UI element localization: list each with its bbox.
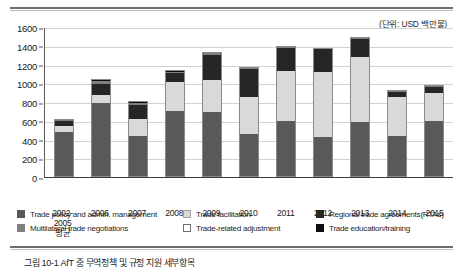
bar-segment[interactable]	[387, 136, 407, 177]
bar-segment[interactable]	[276, 71, 296, 121]
top-divider-rule-thin	[10, 10, 453, 11]
stacked-bar[interactable]	[91, 79, 111, 177]
y-axis-tick-mark	[39, 28, 43, 29]
bar-slot	[119, 28, 156, 177]
legend-swatch-icon	[183, 224, 191, 232]
stacked-bar[interactable]	[313, 48, 333, 177]
y-axis-tick-label: 1200	[17, 60, 37, 71]
y-axis-tick-mark	[39, 141, 43, 142]
legend-label: Trade-related adjustment	[196, 224, 280, 233]
legend-item-multilateral[interactable]: Multilateral trade negotiations	[17, 224, 183, 233]
bar-segment[interactable]	[387, 97, 407, 136]
stacked-bar[interactable]	[165, 70, 185, 177]
legend-item-rtas[interactable]: Regional trade agreements(RTAs)	[316, 210, 444, 219]
legend-label: Trade facilitation	[196, 210, 251, 219]
y-axis-tick-label: 1400	[17, 41, 37, 52]
bar-segment[interactable]	[91, 84, 111, 95]
y-axis-tick-label: 0	[32, 173, 37, 184]
bar-segment[interactable]	[350, 122, 370, 177]
y-axis-tick-mark	[39, 66, 43, 67]
bar-segment[interactable]	[165, 82, 185, 111]
y-axis-tick-mark	[39, 122, 43, 123]
bar-slot	[305, 28, 342, 177]
bar-segment[interactable]	[350, 39, 370, 56]
bar-slot	[156, 28, 193, 177]
legend-label: Trade policy and admin. management	[30, 210, 157, 219]
bar-slot	[230, 28, 267, 177]
chart-legend: Trade policy and admin. managementTrade …	[17, 207, 447, 235]
legend-swatch-icon	[17, 210, 25, 218]
stacked-bar[interactable]	[54, 119, 74, 177]
bar-segment[interactable]	[202, 55, 222, 81]
legend-label: Regional trade agreements(RTAs)	[329, 210, 444, 219]
bar-segment[interactable]	[350, 57, 370, 123]
bar-segment[interactable]	[239, 134, 259, 177]
stacked-bar[interactable]	[128, 101, 148, 177]
y-axis-tick-mark	[39, 84, 43, 85]
legend-item-trade_policy[interactable]: Trade policy and admin. management	[17, 210, 183, 219]
bar-segment[interactable]	[313, 72, 333, 137]
bar-slot	[193, 28, 230, 177]
top-divider-rule	[10, 7, 453, 9]
bar-segment[interactable]	[165, 111, 185, 177]
bar-segment[interactable]	[91, 103, 111, 177]
figure-caption: 그림 10-1 AfT 중 무역정책 및 규정 지원 세부항목	[24, 256, 195, 269]
bar-slot	[416, 28, 453, 177]
legend-item-education[interactable]: Trade education/training	[316, 224, 410, 233]
bar-segment[interactable]	[313, 49, 333, 72]
bar-slot	[268, 28, 305, 177]
bar-segment[interactable]	[128, 119, 148, 135]
stacked-bar[interactable]	[350, 37, 370, 177]
bar-segment[interactable]	[239, 69, 259, 97]
stacked-bar[interactable]	[239, 67, 259, 177]
stacked-bar[interactable]	[202, 52, 222, 177]
bar-segment[interactable]	[128, 136, 148, 177]
bar-segment[interactable]	[424, 121, 444, 177]
y-axis-tick-label: 200	[22, 154, 37, 165]
bar-segment[interactable]	[276, 48, 296, 71]
legend-swatch-icon	[183, 210, 191, 218]
bar-segment[interactable]	[276, 121, 296, 177]
y-axis-tick-label: 1600	[17, 23, 37, 34]
legend-row-1: Trade policy and admin. managementTrade …	[17, 207, 447, 221]
bar-segment[interactable]	[165, 73, 185, 82]
plot-area: 16001400120010008006004002000 2002-2005평…	[0, 28, 461, 190]
bar-segment[interactable]	[313, 137, 333, 177]
bottom-divider-rule	[10, 246, 453, 248]
bar-slot	[379, 28, 416, 177]
y-axis: 16001400120010008006004002000	[0, 28, 44, 178]
stacked-bar[interactable]	[424, 85, 444, 177]
bottom-divider-rule-thin	[10, 249, 453, 250]
stacked-bar[interactable]	[387, 90, 407, 177]
y-axis-tick-label: 800	[22, 98, 37, 109]
y-axis-tick-label: 1000	[17, 79, 37, 90]
bar-slot	[82, 28, 119, 177]
bar-group	[45, 28, 453, 177]
bar-segment[interactable]	[54, 132, 74, 177]
bar-segment[interactable]	[424, 93, 444, 121]
legend-swatch-icon	[316, 224, 324, 232]
bar-segment[interactable]	[91, 95, 111, 103]
y-axis-tick-mark	[39, 103, 43, 104]
bar-segment[interactable]	[128, 105, 148, 119]
legend-swatch-icon	[316, 210, 324, 218]
plot-grid	[44, 28, 453, 178]
legend-label: Multilateral trade negotiations	[30, 224, 128, 233]
bar-slot	[342, 28, 379, 177]
y-axis-tick-label: 400	[22, 135, 37, 146]
legend-swatch-icon	[17, 224, 25, 232]
bar-segment[interactable]	[239, 97, 259, 134]
bar-segment[interactable]	[202, 112, 222, 177]
y-axis-tick-mark	[39, 159, 43, 160]
legend-row-2: Multilateral trade negotiationsTrade-rel…	[17, 221, 447, 235]
stacked-bar[interactable]	[276, 46, 296, 177]
y-axis-tick-label: 600	[22, 116, 37, 127]
legend-label: Trade education/training	[329, 224, 410, 233]
legend-item-trade_facilitation[interactable]: Trade facilitation	[183, 210, 316, 219]
y-axis-tick-mark	[39, 47, 43, 48]
bar-slot	[45, 28, 82, 177]
y-axis-tick-mark	[39, 178, 43, 179]
bar-segment[interactable]	[202, 80, 222, 112]
legend-item-adjustment[interactable]: Trade-related adjustment	[183, 224, 316, 233]
